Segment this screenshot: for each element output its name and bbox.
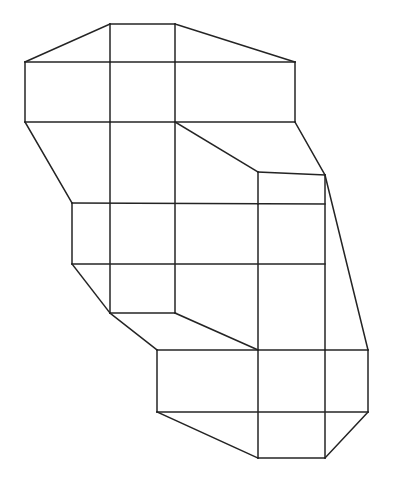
polycube-figure-canvas — [0, 0, 393, 492]
canvas-background — [0, 0, 393, 492]
